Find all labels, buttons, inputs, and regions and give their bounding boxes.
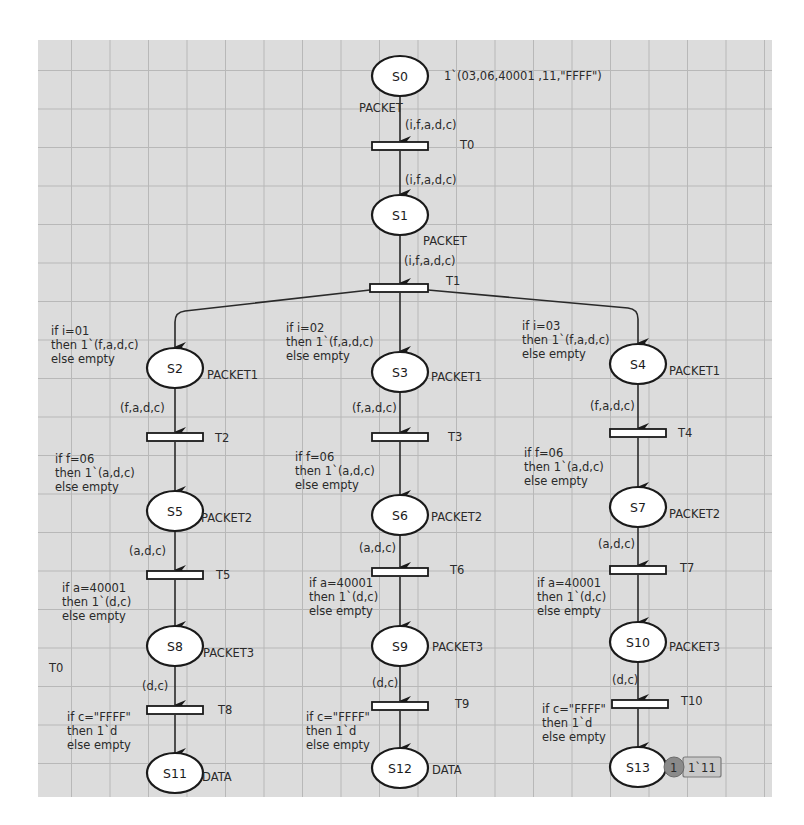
place-s12[interactable]: S12 bbox=[372, 748, 428, 788]
arc-inscription-s3-t3: (f,a,d,c) bbox=[352, 401, 397, 415]
place-label: S1 bbox=[392, 208, 408, 223]
svg-text:if i=03: if i=03 bbox=[522, 319, 560, 333]
svg-text:then 1`(a,d,c): then 1`(a,d,c) bbox=[524, 460, 604, 474]
colorset-label-s5: PACKET2 bbox=[201, 511, 252, 525]
svg-text:if a=40001: if a=40001 bbox=[309, 576, 373, 590]
colorset-label-s4: PACKET1 bbox=[669, 364, 720, 378]
transition-label-t2: T2 bbox=[214, 431, 229, 445]
colorset-label-s10: PACKET3 bbox=[669, 640, 720, 654]
place-s1[interactable]: S1 bbox=[372, 195, 428, 235]
transition-t6[interactable] bbox=[372, 568, 428, 576]
transition-t9[interactable] bbox=[372, 702, 428, 710]
transition-t8[interactable] bbox=[147, 706, 203, 714]
svg-text:then 1`(d,c): then 1`(d,c) bbox=[62, 595, 131, 609]
transition-t5[interactable] bbox=[147, 571, 203, 579]
svg-text:else empty: else empty bbox=[537, 604, 601, 618]
arc-inscription-t1-s3: if i=02 then 1`(f,a,d,c) else empty bbox=[286, 321, 374, 363]
place-label: S7 bbox=[630, 500, 646, 515]
svg-text:else empty: else empty bbox=[542, 730, 606, 744]
transition-t4[interactable] bbox=[610, 429, 666, 437]
svg-text:then 1`(f,a,d,c): then 1`(f,a,d,c) bbox=[51, 338, 139, 352]
arc-inscription-t3-s6: if f=06 then 1`(a,d,c) else empty bbox=[295, 450, 375, 492]
place-s5[interactable]: S5 bbox=[147, 491, 203, 531]
place-s6[interactable]: S6 bbox=[372, 495, 428, 535]
colorset-label-s3: PACKET1 bbox=[431, 370, 482, 384]
arc-inscription-t5-s8: if a=40001 then 1`(d,c) else empty bbox=[62, 581, 131, 623]
transition-label-t5: T5 bbox=[215, 568, 230, 582]
place-label: S11 bbox=[163, 766, 187, 781]
token-marking-s13[interactable]: 1`11 1 bbox=[664, 757, 721, 777]
svg-text:then 1`d: then 1`d bbox=[306, 724, 356, 738]
place-label: S9 bbox=[392, 639, 408, 654]
transition-t10[interactable] bbox=[612, 700, 668, 708]
arc-inscription-s0-t0: (i,f,a,d,c) bbox=[405, 118, 457, 132]
colorset-label-s8: PACKET3 bbox=[203, 646, 254, 660]
place-label: S12 bbox=[388, 761, 412, 776]
token-count: 1 bbox=[670, 761, 677, 775]
colorset-label-s12: DATA bbox=[432, 763, 462, 777]
place-s9[interactable]: S9 bbox=[372, 626, 428, 666]
transition-label-t3: T3 bbox=[447, 430, 462, 444]
svg-text:if c="FFFF": if c="FFFF" bbox=[306, 710, 370, 724]
svg-text:else empty: else empty bbox=[306, 738, 370, 752]
arc-inscription-s9-t9: (d,c) bbox=[372, 676, 398, 690]
colorset-label-s7: PACKET2 bbox=[669, 507, 720, 521]
svg-text:else empty: else empty bbox=[55, 480, 119, 494]
place-s2[interactable]: S2 bbox=[147, 348, 203, 388]
arc-inscription-t10-s13: if c="FFFF" then 1`d else empty bbox=[542, 702, 606, 744]
place-s4[interactable]: S4 bbox=[610, 344, 666, 384]
transition-t0[interactable] bbox=[372, 142, 428, 150]
transition-t7[interactable] bbox=[610, 566, 666, 574]
arc-inscription-t8-s11: if c="FFFF" then 1`d else empty bbox=[67, 710, 131, 752]
arc-inscription-s1-t1: (i,f,a,d,c) bbox=[404, 254, 456, 268]
transition-label-t10: T10 bbox=[680, 694, 703, 708]
svg-text:else empty: else empty bbox=[67, 738, 131, 752]
svg-text:if f=06: if f=06 bbox=[295, 450, 334, 464]
place-s3[interactable]: S3 bbox=[372, 352, 428, 392]
place-s0[interactable]: S0 bbox=[372, 56, 428, 96]
place-label: S13 bbox=[626, 760, 650, 775]
colorset-label-s0: PACKET bbox=[359, 101, 404, 115]
arc-inscription-t9-s12: if c="FFFF" then 1`d else empty bbox=[306, 710, 370, 752]
svg-text:then 1`(a,d,c): then 1`(a,d,c) bbox=[55, 466, 135, 480]
svg-text:if c="FFFF": if c="FFFF" bbox=[67, 710, 131, 724]
place-s8[interactable]: S8 bbox=[147, 626, 203, 666]
transition-t3[interactable] bbox=[372, 433, 428, 441]
arc-inscription-s2-t2: (f,a,d,c) bbox=[120, 401, 165, 415]
transition-label-t7: T7 bbox=[679, 561, 694, 575]
arc-inscription-s8-t8: (d,c) bbox=[142, 679, 168, 693]
place-label: S0 bbox=[392, 69, 408, 84]
svg-text:else empty: else empty bbox=[295, 478, 359, 492]
place-label: S3 bbox=[392, 365, 408, 380]
svg-text:if a=40001: if a=40001 bbox=[62, 581, 126, 595]
place-label: S6 bbox=[392, 508, 408, 523]
arc-inscription-t0-s1: (i,f,a,d,c) bbox=[405, 173, 457, 187]
svg-text:then 1`(f,a,d,c): then 1`(f,a,d,c) bbox=[286, 335, 374, 349]
arc-inscription-t4-s7: if f=06 then 1`(a,d,c) else empty bbox=[524, 446, 604, 488]
colorset-label-s2: PACKET1 bbox=[207, 368, 258, 382]
colorset-label-s6: PACKET2 bbox=[431, 510, 482, 524]
arc-inscription-t1-s4: if i=03 then 1`(f,a,d,c) else empty bbox=[522, 319, 610, 361]
svg-text:else empty: else empty bbox=[51, 352, 115, 366]
transition-label-t8: T8 bbox=[217, 703, 232, 717]
colorset-label-s1: PACKET bbox=[423, 234, 468, 248]
place-s13[interactable]: S13 bbox=[610, 747, 666, 787]
place-s7[interactable]: S7 bbox=[610, 487, 666, 527]
transition-t1[interactable] bbox=[370, 284, 428, 292]
transition-label-t0: T0 bbox=[459, 138, 474, 152]
svg-text:then 1`(d,c): then 1`(d,c) bbox=[309, 590, 378, 604]
svg-text:then 1`(f,a,d,c): then 1`(f,a,d,c) bbox=[522, 333, 610, 347]
transition-t2[interactable] bbox=[147, 433, 203, 441]
arc-inscription-s4-t4: (f,a,d,c) bbox=[590, 399, 635, 413]
svg-text:else empty: else empty bbox=[309, 604, 373, 618]
place-label: S4 bbox=[630, 357, 646, 372]
stray-transition-label: T0 bbox=[48, 661, 63, 675]
place-s10[interactable]: S10 bbox=[610, 622, 666, 662]
transition-label-t9: T9 bbox=[454, 697, 469, 711]
svg-text:then 1`(d,c): then 1`(d,c) bbox=[537, 590, 606, 604]
place-s11[interactable]: S11 bbox=[147, 753, 203, 793]
svg-text:if a=40001: if a=40001 bbox=[537, 576, 601, 590]
svg-text:then 1`d: then 1`d bbox=[67, 724, 117, 738]
marking-text: 1`11 bbox=[688, 761, 716, 775]
arc-inscription-s5-t5: (a,d,c) bbox=[129, 544, 166, 558]
